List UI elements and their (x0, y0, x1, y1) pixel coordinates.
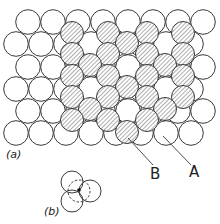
close-packed-layers-figure: (a) B A (b) (0, 0, 220, 224)
sphere-b (136, 65, 159, 88)
sphere-a (191, 99, 216, 124)
sphere-b (61, 109, 84, 132)
sphere-b (136, 22, 159, 45)
sphere-b (172, 22, 195, 45)
part-b-label: (b) (44, 206, 60, 217)
sphere-a (4, 121, 29, 146)
sphere-a (29, 32, 54, 57)
sphere-b (172, 65, 195, 88)
label-a: A (189, 165, 199, 180)
sphere-a (4, 77, 29, 102)
sphere-a (29, 121, 54, 146)
sphere-b (136, 109, 159, 132)
sphere-b (61, 65, 84, 88)
site-dot (77, 188, 81, 192)
sphere-b (61, 22, 84, 45)
label-b: B (150, 167, 160, 182)
sphere-b (116, 121, 139, 144)
sphere-a (4, 32, 29, 57)
sphere-a (16, 99, 41, 124)
sphere-a (16, 10, 41, 35)
part-a-label: (a) (6, 149, 21, 160)
packing-diagram (0, 0, 220, 224)
sphere-a (16, 55, 41, 80)
sphere-a (29, 77, 54, 102)
inset-b-tetrahedral-site (61, 171, 101, 212)
sphere-a (179, 121, 204, 146)
